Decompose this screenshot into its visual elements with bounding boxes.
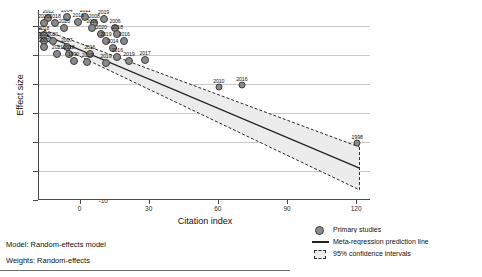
data-point	[120, 37, 128, 45]
legend-item-confidence-intervals: 95% confidence intervals	[312, 248, 482, 259]
legend-dashed-box-icon	[312, 249, 330, 259]
weights-note: Weights: Random-effects	[6, 256, 90, 265]
data-point-year-label: 2019	[123, 51, 134, 57]
footer-divider	[0, 270, 290, 271]
data-point-year-label: 2020	[96, 24, 107, 30]
data-point-year-label: 2007	[38, 37, 49, 43]
data-point-year-label: 2021	[52, 44, 63, 50]
data-point	[100, 15, 108, 23]
data-point-year-label: 2020	[38, 13, 49, 19]
legend-label: Meta-regression prediction line	[333, 238, 429, 245]
x-axis-tick-mark	[356, 200, 357, 204]
legend-item-prediction-line: Meta-regression prediction line	[312, 236, 482, 247]
x-axis-tick-mark	[149, 200, 150, 204]
x-axis-tick-label: 60	[203, 205, 233, 212]
x-axis-tick-mark	[218, 200, 219, 204]
data-point-year-label: 2019	[100, 31, 111, 37]
legend-item-primary-studies: Primary studies	[312, 224, 482, 235]
plot-area: 2012200420112019202020182016200820202016…	[38, 10, 370, 200]
data-point-year-label: 1998	[352, 134, 363, 140]
x-axis-tick-label: 90	[272, 205, 302, 212]
data-point-year-label: 2016	[73, 12, 84, 18]
data-point-year-label: 2010	[213, 78, 224, 84]
data-point-year-label: 2016	[84, 44, 95, 50]
data-point-year-label: 2018	[112, 24, 123, 30]
data-point-year-label: 2006	[110, 18, 121, 24]
data-point	[113, 53, 121, 61]
data-point-year-label: 2014	[107, 38, 118, 44]
data-point-year-label: 2007	[61, 37, 72, 43]
data-point-year-label: 2016	[112, 47, 123, 53]
data-point	[60, 24, 68, 32]
x-axis-tick-label: 30	[134, 205, 164, 212]
data-point-year-label: 2018	[63, 44, 74, 50]
data-point-year-label: 2016	[86, 18, 97, 24]
data-point-year-label: 2019	[100, 53, 111, 59]
legend-marker-circle-icon	[312, 225, 330, 235]
data-point-year-label: 2019	[82, 52, 93, 58]
y-axis-title: Effect size	[15, 55, 25, 135]
y-axis-tick-mark	[33, 200, 38, 201]
data-point	[238, 82, 245, 89]
data-point	[70, 57, 78, 65]
data-point-year-label: 1990	[68, 51, 79, 57]
x-axis-tick-label: 0	[65, 205, 95, 212]
data-point	[125, 57, 133, 65]
data-point	[141, 56, 149, 64]
data-point-year-label: 2020	[59, 18, 70, 24]
chart-legend: Primary studies Meta-regression predicti…	[312, 224, 482, 260]
x-axis-tick-mark	[80, 200, 81, 204]
data-point	[74, 18, 82, 26]
x-axis-tick-label: 120	[341, 205, 371, 212]
data-point-year-label: 2021	[47, 31, 58, 37]
legend-label: 95% confidence intervals	[333, 250, 411, 257]
data-point	[102, 59, 110, 67]
data-point-year-label: 2004	[61, 10, 72, 13]
data-point	[354, 140, 361, 147]
model-note: Model: Random-effects model	[6, 240, 106, 249]
data-point	[215, 84, 222, 91]
data-point-year-label: 2016	[236, 76, 247, 82]
data-point	[53, 50, 61, 58]
x-axis-title: Citation index	[110, 216, 300, 226]
data-point	[40, 43, 48, 51]
data-point-year-label: 2017	[139, 50, 150, 56]
legend-line-icon	[312, 237, 330, 247]
chart-canvas	[39, 10, 370, 200]
data-point	[83, 58, 91, 66]
x-axis-tick-mark	[287, 200, 288, 204]
legend-label: Primary studies	[333, 226, 381, 233]
data-point-year-label: 2016	[119, 31, 130, 37]
